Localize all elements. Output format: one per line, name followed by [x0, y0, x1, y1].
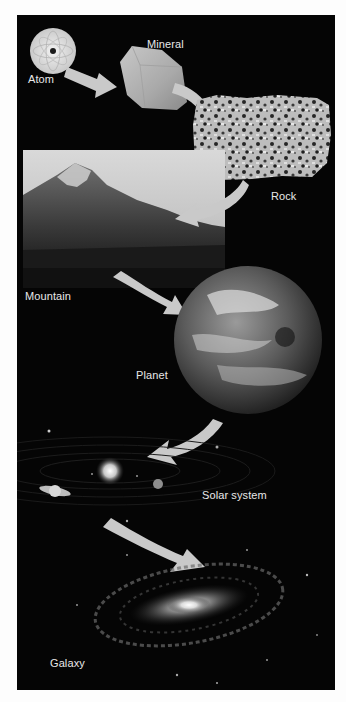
mineral-image — [120, 46, 187, 110]
arrow-solar-to-galaxy — [103, 518, 205, 572]
label-mountain: Mountain — [25, 290, 71, 302]
galaxy-image — [76, 549, 318, 684]
solar-system-image — [17, 430, 275, 523]
label-galaxy: Galaxy — [50, 657, 85, 669]
figure-panel: Atom Mineral Rock Mountain Planet Solar … — [17, 15, 335, 690]
label-atom: Atom — [28, 73, 54, 85]
planet-image — [174, 266, 322, 414]
atom-image — [30, 28, 76, 74]
label-planet: Planet — [136, 369, 168, 381]
label-mineral: Mineral — [147, 38, 184, 50]
label-rock: Rock — [271, 190, 296, 202]
arrow-atom-to-mineral — [64, 67, 117, 98]
label-solar-system: Solar system — [202, 489, 267, 501]
